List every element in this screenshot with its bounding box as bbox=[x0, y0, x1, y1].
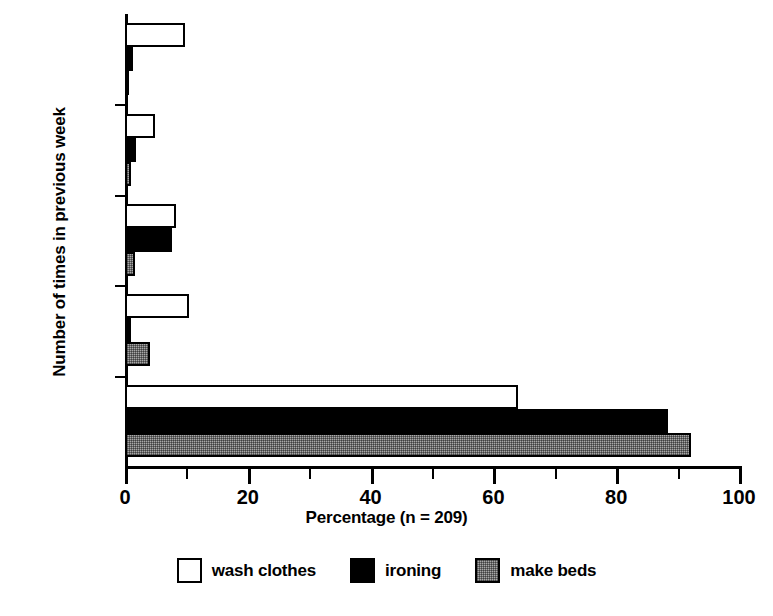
x-axis-label-60: 60 bbox=[458, 486, 528, 509]
bar-group bbox=[125, 204, 739, 276]
x-axis-tick-60 bbox=[493, 466, 496, 484]
x-axis-tick-0 bbox=[125, 466, 128, 484]
x-axis-minor-tick-90 bbox=[678, 466, 680, 479]
bar-wash-clothes-cat-0 bbox=[125, 385, 518, 409]
bar-wash-clothes-cat-2 bbox=[125, 204, 176, 228]
y-axis-title: Number of times in previous week bbox=[50, 32, 70, 452]
chart-legend: wash clothesironingmake beds bbox=[0, 558, 773, 583]
x-axis-title: Percentage (n = 209) bbox=[0, 508, 773, 528]
y-axis-tick bbox=[115, 195, 126, 197]
bar-ironing-cat-1 bbox=[125, 318, 131, 342]
bar-wash-clothes-cat-3 bbox=[125, 114, 155, 138]
bar-wash-clothes-cat-4+ bbox=[125, 23, 185, 47]
legend-label: make beds bbox=[510, 561, 596, 581]
x-axis-tick-20 bbox=[248, 466, 251, 484]
bar-ironing-cat-4+ bbox=[125, 47, 133, 71]
legend-label: wash clothes bbox=[212, 561, 316, 581]
x-axis-minor-tick-10 bbox=[186, 466, 188, 479]
x-axis-label-20: 20 bbox=[213, 486, 283, 509]
legend-item-make-beds: make beds bbox=[475, 558, 596, 583]
x-axis-minor-tick-70 bbox=[555, 466, 557, 479]
legend-swatch-icon bbox=[177, 558, 202, 583]
legend-item-wash-clothes: wash clothes bbox=[177, 558, 316, 583]
bar-group bbox=[125, 114, 739, 186]
plot-area: 01234 +020406080100 bbox=[125, 14, 739, 466]
x-axis-minor-tick-50 bbox=[432, 466, 434, 479]
x-axis-label-100: 100 bbox=[704, 486, 773, 509]
y-axis-tick bbox=[115, 376, 126, 378]
legend-item-ironing: ironing bbox=[350, 558, 441, 583]
x-axis-label-40: 40 bbox=[336, 486, 406, 509]
bar-make-beds-cat-3 bbox=[125, 162, 131, 186]
bar-ironing-cat-2 bbox=[125, 228, 172, 252]
x-axis-tick-40 bbox=[371, 466, 374, 484]
bar-make-beds-cat-2 bbox=[125, 252, 135, 276]
y-axis-tick bbox=[115, 104, 126, 106]
bar-wash-clothes-cat-1 bbox=[125, 294, 189, 318]
x-axis-label-80: 80 bbox=[581, 486, 651, 509]
x-axis-tick-80 bbox=[616, 466, 619, 484]
bar-make-beds-cat-0 bbox=[125, 433, 691, 457]
bar-group bbox=[125, 294, 739, 366]
bar-make-beds-cat-4+ bbox=[125, 71, 129, 95]
legend-swatch-icon bbox=[350, 558, 375, 583]
legend-label: ironing bbox=[385, 561, 441, 581]
bar-chart: Number of times in previous week 01234 +… bbox=[0, 0, 773, 616]
bar-group bbox=[125, 385, 739, 457]
x-axis-label-0: 0 bbox=[90, 486, 160, 509]
y-axis-tick bbox=[115, 285, 126, 287]
x-axis-tick-100 bbox=[739, 466, 742, 484]
legend-swatch-icon bbox=[475, 558, 500, 583]
bar-make-beds-cat-1 bbox=[125, 342, 150, 366]
x-axis-minor-tick-30 bbox=[309, 466, 311, 479]
bar-ironing-cat-3 bbox=[125, 138, 136, 162]
bar-group bbox=[125, 23, 739, 95]
bar-ironing-cat-0 bbox=[125, 409, 668, 433]
